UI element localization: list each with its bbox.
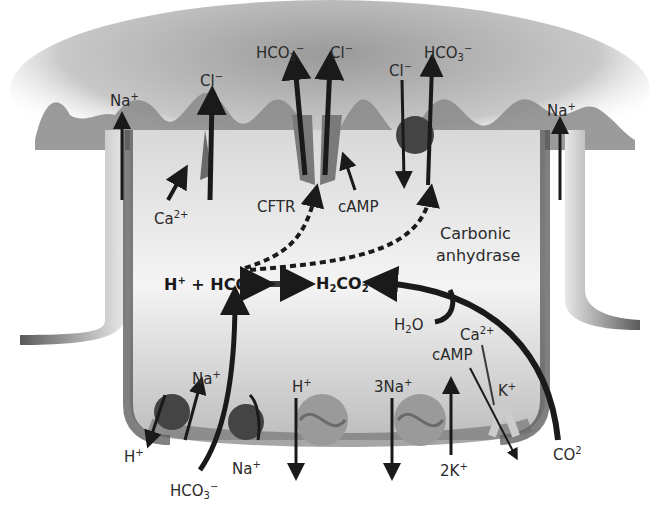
label-ca-baso: Ca2+ [460, 326, 494, 343]
label-cl-left: Cl− [200, 72, 223, 89]
lateral-wall-left [20, 130, 125, 345]
label-h2o: H2O [394, 318, 423, 335]
label-na-nbc: Na+ [232, 460, 261, 477]
cell-diagram: Na+ Cl− Ca2+ HCO3− Cl− CFTR cAMP Cl− HCO… [0, 0, 668, 512]
label-co2: CO2 [553, 446, 582, 463]
label-hco3-nbc: HCO3− [170, 482, 218, 501]
label-hco3-cftr: HCO3− [256, 44, 304, 63]
label-h2co2: H2CO2 [316, 276, 369, 294]
lateral-wall-right [565, 130, 640, 330]
label-na-nhe: Na+ [192, 370, 221, 387]
label-ca-apical: Ca2+ [154, 210, 188, 227]
label-k-channel: K+ [498, 382, 516, 399]
cl-exchanger-arrow [402, 80, 404, 180]
label-cl-cftr: Cl− [330, 44, 353, 61]
label-h-pump: H+ [292, 378, 312, 395]
label-cl-exchanger: Cl− [389, 62, 412, 79]
cell-illustration [0, 0, 668, 512]
label-camp-baso: cAMP [432, 348, 473, 363]
cl-arrow-left [210, 100, 212, 200]
label-na-apical-right: Na+ [547, 102, 576, 119]
label-na-apical-left: Na+ [110, 92, 139, 109]
label-hco3-exchanger: HCO3− [424, 44, 472, 63]
label-3na: 3Na+ [374, 378, 412, 395]
label-anhydrase: anhydrase [436, 248, 520, 264]
label-2k: 2K+ [440, 462, 468, 479]
label-h-nhe: H+ [124, 448, 144, 465]
label-h-plus-hco3: H+ + HCO3 [164, 276, 256, 295]
label-carbonic: Carbonic [440, 226, 511, 242]
label-cftr: CFTR [257, 200, 295, 215]
label-camp-apical: cAMP [338, 200, 379, 215]
